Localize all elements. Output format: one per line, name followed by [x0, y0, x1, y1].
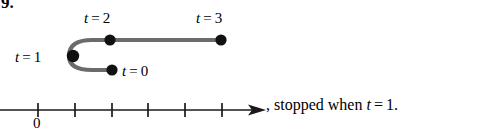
number-line-graphic — [0, 0, 483, 135]
trailing-eq: = — [371, 96, 386, 113]
trailing-period: . — [394, 96, 398, 113]
trailing-comma: , — [266, 96, 270, 113]
trailing-sentence: , stopped when t=1. — [266, 96, 398, 114]
trailing-value: 1 — [386, 96, 394, 113]
trailing-words: stopped when — [274, 96, 362, 113]
figure-root: 9. t=2 t=3 t=1 t=0 0 , stopped when t=1. — [0, 0, 483, 135]
number-line-origin-label: 0 — [33, 116, 41, 131]
